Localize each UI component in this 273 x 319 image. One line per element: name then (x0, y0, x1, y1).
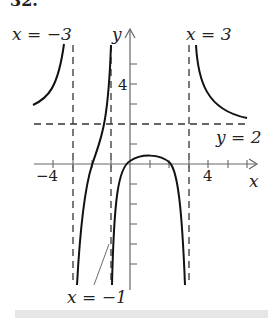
label-tick-4-x: 4 (203, 167, 213, 185)
axes (34, 29, 257, 290)
label-leader-line (94, 244, 109, 285)
label-x-axis: x (249, 171, 259, 191)
label-y-axis: y (111, 24, 122, 44)
label-asymptote-y-2: y = 2 (215, 127, 261, 147)
curve-branch-left (33, 44, 64, 105)
curve-branch-center (112, 156, 185, 285)
label-asymptote-x-neg3: x = −3 (12, 24, 72, 44)
label-asymptote-x-neg1: x = −1 (67, 287, 127, 307)
curve-branch-middle-left (77, 45, 111, 285)
asymptote-lines (34, 45, 248, 285)
label-tick-4-y: 4 (118, 76, 128, 94)
label-asymptote-x-3: x = 3 (186, 24, 231, 44)
bottom-strip (15, 310, 268, 318)
problem-number: 32. (10, 0, 38, 10)
label-tick-neg4: −4 (36, 167, 58, 185)
rational-function-graph: 32. (0, 0, 273, 319)
curve-branch-right (196, 45, 247, 118)
